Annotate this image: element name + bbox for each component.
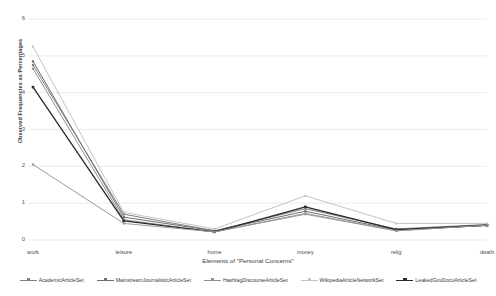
data-point-marker [123, 211, 125, 213]
data-point-marker [123, 222, 125, 224]
data-point-marker [32, 60, 34, 62]
series-line [33, 164, 487, 231]
chart-canvas [0, 0, 496, 254]
legend-item[interactable]: WikipediaArticleNetworkSet [301, 277, 384, 284]
data-point-marker [395, 230, 397, 232]
x-tick-label: death [447, 249, 496, 255]
data-point-marker [304, 206, 307, 209]
data-point-marker [304, 210, 306, 212]
series-line [33, 47, 487, 229]
chart-legend: AcademicArticleSetMainstreamJournalistic… [0, 272, 496, 288]
plot-area: Observed Frequencies as Percentages 0123… [0, 0, 496, 254]
x-tick-label: work [0, 249, 73, 255]
series-line [33, 69, 487, 232]
data-point-marker [304, 195, 306, 197]
x-axis-title: Elements of "Personal Concerns" [0, 257, 496, 264]
data-point-marker [123, 216, 125, 218]
data-point-marker [32, 68, 34, 70]
legend-label: HashtagDiscourseArticleSet [223, 277, 288, 283]
x-tick-label: home [175, 249, 255, 255]
series-line [33, 65, 487, 231]
legend-label: LeakedGovDocuArticleSet [415, 277, 476, 283]
data-point-marker [304, 213, 306, 215]
legend-label: AcademicArticleSet [39, 277, 84, 283]
legend-swatch-icon [396, 277, 413, 284]
data-point-marker [32, 46, 34, 48]
legend-swatch-icon [97, 277, 114, 284]
legend-swatch-icon [204, 277, 221, 284]
legend-item[interactable]: LeakedGovDocuArticleSet [396, 277, 476, 284]
data-point-marker [32, 163, 34, 165]
x-tick-label: relig [356, 249, 436, 255]
data-point-marker [214, 231, 216, 233]
legend-item[interactable]: AcademicArticleSet [20, 277, 84, 284]
legend-label: MainstreamJournalisticArticleSet [116, 277, 191, 283]
legend-label: WikipediaArticleNetworkSet [320, 277, 384, 283]
legend-item[interactable]: HashtagDiscourseArticleSet [204, 277, 288, 284]
data-point-marker [32, 86, 35, 89]
series-markers [32, 46, 489, 234]
legend-item[interactable]: MainstreamJournalisticArticleSet [97, 277, 191, 284]
series-lines [33, 47, 487, 232]
legend-swatch-icon [301, 277, 318, 284]
data-point-marker [214, 228, 216, 230]
data-point-marker [395, 222, 397, 224]
series-line [33, 61, 487, 230]
series-line [33, 87, 487, 232]
line-chart: Observed Frequencies as Percentages 0123… [0, 0, 496, 296]
data-point-marker [123, 220, 126, 223]
data-point-marker [486, 224, 488, 226]
x-tick-label: money [265, 249, 345, 255]
legend-swatch-icon [20, 277, 37, 284]
x-tick-label: leisure [84, 249, 164, 255]
data-point-marker [32, 64, 34, 66]
